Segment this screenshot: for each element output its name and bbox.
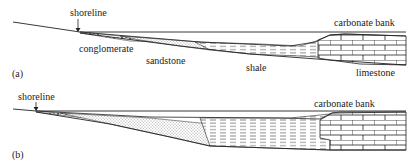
shale-layer-a [195, 35, 335, 58]
panel-label-a: (a) [12, 69, 23, 79]
label-limestone: limestone [356, 68, 395, 78]
panel-b [13, 102, 406, 150]
land-surface-a [13, 22, 80, 32]
panel-label-b: (b) [12, 150, 24, 160]
shale-layer-b [200, 114, 330, 150]
label-shoreline-b: shoreline [18, 92, 55, 102]
land-surface-b [13, 109, 36, 111]
label-carbonate-bank-a: carbonate bank [334, 18, 395, 28]
label-shale: shale [246, 63, 267, 73]
label-sandstone: sandstone [146, 56, 185, 66]
label-carbonate-bank-b: carbonate bank [314, 99, 375, 109]
label-shoreline-a: shoreline [70, 8, 107, 18]
limestone-layer-b [320, 112, 406, 150]
label-conglomerate: conglomerate [79, 44, 133, 54]
